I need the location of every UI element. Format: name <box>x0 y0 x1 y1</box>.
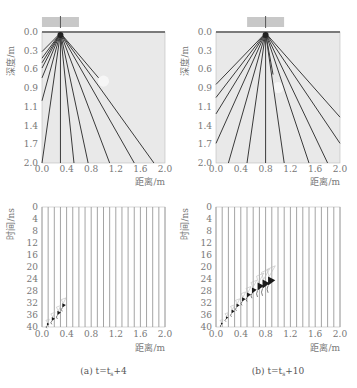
y-tick-label: 8 <box>206 226 212 236</box>
x-tick-label: 0.4 <box>234 329 249 339</box>
y-tick-label: 36 <box>201 310 213 320</box>
x-tick-label: 0.4 <box>59 329 74 339</box>
y-axis-label: 深度/m <box>179 46 190 76</box>
y-tick-label: 32 <box>201 298 212 308</box>
y-tick-label: 4 <box>32 214 38 224</box>
source-point <box>263 32 269 38</box>
x-tick-label: 0.8 <box>258 164 273 174</box>
y-tick-label: 0.3 <box>24 46 39 56</box>
figure-canvas: 0.00.30.60.91.11.41.72.00.00.40.81.21.62… <box>0 0 357 388</box>
x-tick-label: 2.0 <box>333 164 348 174</box>
x-tick-label: 2.0 <box>333 329 348 339</box>
x-tick-label: 0.8 <box>84 164 99 174</box>
y-tick-label: 16 <box>201 250 213 260</box>
panel-b: 0.00.30.60.91.11.41.72.00.00.40.81.21.62… <box>179 16 347 377</box>
x-axis-label: 距离/m <box>135 342 165 353</box>
y-tick-label: 1.4 <box>24 121 39 131</box>
y-tick-label: 12 <box>27 238 38 248</box>
y-tick-label: 28 <box>201 286 213 296</box>
x-tick-label: 0.0 <box>35 164 50 174</box>
y-tick-label: 32 <box>27 298 38 308</box>
y-tick-label: 20 <box>201 262 213 272</box>
y-tick-label: 0 <box>206 202 212 212</box>
figure: 0.00.30.60.91.11.41.72.00.00.40.81.21.62… <box>0 0 357 388</box>
y-axis-label: 时间/ns <box>5 208 16 240</box>
y-tick-label: 0.3 <box>198 46 213 56</box>
x-tick-label: 1.6 <box>308 164 323 174</box>
x-tick-label: 1.6 <box>308 329 323 339</box>
radargram-plot: 04812162024283236400.00.40.81.21.62.0时间/… <box>179 202 347 353</box>
y-tick-label: 24 <box>201 274 213 284</box>
y-tick-label: 36 <box>27 310 39 320</box>
x-tick-label: 0.0 <box>209 164 224 174</box>
y-tick-label: 0.0 <box>198 27 213 37</box>
x-axis-label: 距离/m <box>310 176 340 187</box>
y-tick-label: 1.1 <box>24 102 38 112</box>
y-tick-label: 0 <box>32 202 38 212</box>
panel-a: 0.00.30.60.91.11.41.72.00.00.40.81.21.62… <box>5 16 172 377</box>
anomaly-circle <box>98 76 109 87</box>
y-tick-label: 1.4 <box>198 121 213 131</box>
y-tick-label: 0.9 <box>24 83 39 93</box>
y-tick-label: 0.6 <box>24 64 39 74</box>
x-tick-label: 1.6 <box>133 329 148 339</box>
x-tick-label: 2.0 <box>158 329 173 339</box>
x-tick-label: 1.2 <box>109 329 123 339</box>
y-tick-label: 0.9 <box>198 83 213 93</box>
y-axis-label: 时间/ns <box>179 208 190 240</box>
x-tick-label: 1.2 <box>283 164 297 174</box>
panel-caption: (a) t=ts+4 <box>80 366 127 377</box>
x-tick-label: 0.4 <box>59 164 74 174</box>
y-tick-label: 16 <box>27 250 39 260</box>
y-tick-label: 0.0 <box>24 27 39 37</box>
x-axis-label: 距离/m <box>135 176 165 187</box>
y-tick-label: 12 <box>201 238 212 248</box>
x-tick-label: 0.8 <box>84 329 99 339</box>
x-tick-label: 0.8 <box>258 329 273 339</box>
x-axis-label: 距离/m <box>310 342 340 353</box>
y-tick-label: 24 <box>27 274 39 284</box>
x-tick-label: 1.2 <box>283 329 297 339</box>
y-tick-label: 4 <box>206 214 212 224</box>
radargram-plot: 04812162024283236400.00.40.81.21.62.0时间/… <box>5 202 172 353</box>
source-point <box>57 32 63 38</box>
y-tick-label: 1.1 <box>198 102 212 112</box>
y-tick-label: 1.7 <box>198 139 213 149</box>
x-tick-label: 0.4 <box>234 164 249 174</box>
y-tick-label: 28 <box>27 286 39 296</box>
x-tick-label: 1.6 <box>133 164 148 174</box>
depth-model-plot: 0.00.30.60.91.11.41.72.00.00.40.81.21.62… <box>5 16 172 187</box>
y-tick-label: 0.6 <box>198 64 213 74</box>
y-axis-label: 深度/m <box>5 46 16 76</box>
y-tick-label: 8 <box>32 226 38 236</box>
x-tick-label: 2.0 <box>158 164 173 174</box>
panel-caption: (b) t=ts+10 <box>252 366 305 377</box>
y-tick-label: 1.7 <box>24 139 39 149</box>
depth-model-plot: 0.00.30.60.91.11.41.72.00.00.40.81.21.62… <box>179 16 347 187</box>
y-tick-label: 20 <box>27 262 39 272</box>
x-tick-label: 1.2 <box>109 164 123 174</box>
x-tick-label: 0.0 <box>209 329 224 339</box>
x-tick-label: 0.0 <box>35 329 50 339</box>
